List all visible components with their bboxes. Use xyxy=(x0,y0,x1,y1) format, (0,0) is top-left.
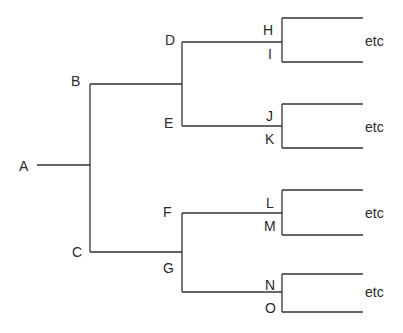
node-label-n: N xyxy=(265,278,275,292)
node-label-f: F xyxy=(163,205,172,219)
node-label-d: D xyxy=(165,33,175,47)
node-label-m: M xyxy=(264,219,276,233)
node-label-b: B xyxy=(71,74,80,88)
etc-label-1: etc xyxy=(365,34,384,48)
tree-lines xyxy=(0,0,403,333)
node-label-e: E xyxy=(164,116,173,130)
etc-label-4: etc xyxy=(365,285,384,299)
etc-label-3: etc xyxy=(365,206,384,220)
node-label-c: C xyxy=(72,245,82,259)
node-label-o: O xyxy=(265,301,276,315)
node-label-h: H xyxy=(263,23,273,37)
node-label-k: K xyxy=(265,132,274,146)
etc-label-2: etc xyxy=(365,120,384,134)
node-label-j: J xyxy=(266,109,273,123)
node-label-a: A xyxy=(19,159,28,173)
node-label-g: G xyxy=(163,261,174,275)
node-label-l: L xyxy=(266,196,274,210)
node-label-i: I xyxy=(268,47,272,61)
